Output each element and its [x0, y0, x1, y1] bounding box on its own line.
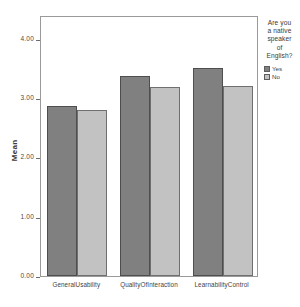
legend-title-line: English? — [260, 52, 299, 60]
legend: Are youa nativespeakerofEnglish? YesNo — [259, 16, 300, 277]
legend-title-line: a native — [260, 27, 299, 35]
y-axis-tick-label: 4.00 — [21, 35, 34, 42]
bar-group — [193, 17, 253, 276]
bar — [223, 86, 253, 276]
x-axis-label: LearnabilityControl — [177, 281, 267, 288]
y-axis-tick-label: 3.00 — [21, 94, 34, 101]
legend-item[interactable]: No — [264, 73, 300, 80]
y-axis-tick-label: 1.00 — [21, 213, 34, 220]
legend-swatch-icon — [264, 74, 270, 80]
legend-item-label: Yes — [272, 65, 282, 72]
bar — [77, 110, 107, 276]
bar-group — [47, 17, 107, 276]
bar — [150, 87, 180, 276]
legend-swatch-icon — [264, 66, 270, 72]
bars-container — [41, 17, 257, 276]
bar — [120, 76, 150, 276]
bar-group — [120, 17, 180, 276]
legend-title-line: speaker — [260, 35, 299, 43]
bar — [47, 106, 77, 276]
legend-title-line: Are you — [260, 19, 299, 27]
legend-title-line: of — [260, 44, 299, 52]
y-axis-tick-label: 0.00 — [21, 272, 34, 279]
legend-entries: YesNo — [259, 65, 300, 80]
plot-area — [40, 16, 258, 277]
bar-chart: Mean 0.001.002.003.004.00 GeneralUsabili… — [0, 0, 300, 307]
y-axis-tick-label: 2.00 — [21, 153, 34, 160]
bar — [193, 68, 223, 276]
legend-item[interactable]: Yes — [264, 65, 300, 72]
legend-title: Are youa nativespeakerofEnglish? — [259, 16, 300, 60]
y-axis: 0.001.002.003.004.00 — [0, 0, 40, 307]
y-axis-tick-mark — [36, 277, 40, 278]
legend-item-label: No — [272, 73, 280, 80]
